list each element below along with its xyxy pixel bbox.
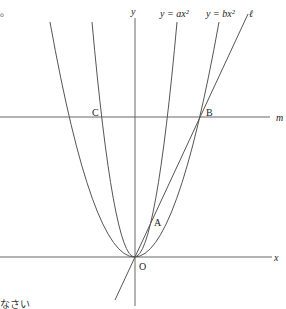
point-b-label: B [206,107,213,118]
point-a-label: A [154,217,162,228]
line-l-label: ℓ [249,8,253,19]
line-m-label: m [276,112,283,123]
y-axis-label: y [130,6,136,17]
x-axis-label: x [273,252,279,263]
parabola-a-label: y = ax² [159,8,190,19]
point-c-label: C [92,107,99,118]
origin-label: O [139,261,146,272]
diagram-canvas: y x O y = ax² y = bx² ℓ m C B A [0,0,286,309]
parabola-b-label: y = bx² [205,8,236,19]
